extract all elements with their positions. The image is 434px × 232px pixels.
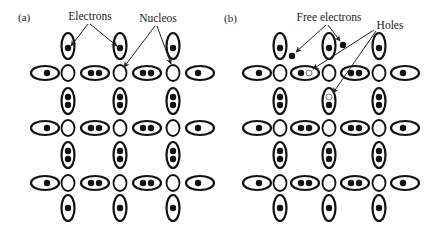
- electron: [170, 156, 176, 162]
- nucleus: [274, 175, 287, 191]
- bond-shell-horizontal: [341, 176, 369, 190]
- electron: [356, 70, 362, 76]
- lattice-b: [243, 33, 419, 221]
- panel-b: (b) Free electrons Holes: [224, 11, 419, 221]
- electron: [326, 205, 332, 211]
- electron: [44, 125, 50, 131]
- electron: [88, 125, 94, 131]
- electron: [96, 70, 102, 76]
- electron: [277, 156, 283, 162]
- electron: [376, 45, 382, 51]
- nucleos-arrows: [124, 26, 171, 67]
- electron: [326, 148, 332, 154]
- electron: [170, 102, 176, 108]
- electron: [195, 180, 201, 186]
- electron: [44, 70, 50, 76]
- nucleus: [373, 120, 386, 136]
- bond-shell-horizontal: [133, 121, 161, 135]
- electron: [96, 125, 102, 131]
- bond-shell-horizontal: [81, 176, 109, 190]
- hole: [306, 70, 312, 76]
- bond-shell-horizontal: [341, 66, 369, 80]
- electron: [65, 102, 71, 108]
- electron: [170, 45, 176, 51]
- electron: [117, 45, 123, 51]
- free-electron: [340, 42, 346, 48]
- electrons-arrows: [71, 24, 117, 46]
- hole: [326, 94, 332, 100]
- arrow-to-nucleus-1: [124, 26, 155, 67]
- nucleos-label: Nucleos: [139, 12, 177, 24]
- panel-a: (a) Electrons Nucleos: [18, 10, 214, 221]
- free-electron: [289, 53, 295, 59]
- electron: [117, 102, 123, 108]
- nucleus: [323, 120, 336, 136]
- nucleus: [373, 175, 386, 191]
- electron: [117, 156, 123, 162]
- bond-shell-vertical: [323, 142, 336, 168]
- electron: [148, 70, 154, 76]
- electron: [117, 205, 123, 211]
- nucleus: [62, 120, 75, 136]
- bond-shell-horizontal: [341, 121, 369, 135]
- electron: [170, 94, 176, 100]
- electron: [326, 156, 332, 162]
- bond-shell-horizontal: [291, 121, 319, 135]
- electron: [195, 125, 201, 131]
- electron: [195, 70, 201, 76]
- semiconductor-lattice-diagram: (a) Electrons Nucleos (b) Free electrons…: [0, 0, 434, 232]
- electron: [277, 102, 283, 108]
- electron: [96, 180, 102, 186]
- electron: [44, 180, 50, 186]
- electron: [88, 180, 94, 186]
- bond-shell-vertical: [62, 88, 75, 114]
- electron: [65, 94, 71, 100]
- nucleus: [323, 65, 336, 81]
- electron: [277, 205, 283, 211]
- nucleus: [323, 175, 336, 191]
- bond-shell-vertical: [274, 142, 287, 168]
- electron: [170, 148, 176, 154]
- electron: [277, 148, 283, 154]
- electron: [65, 156, 71, 162]
- nucleus: [167, 65, 180, 81]
- nucleus: [274, 65, 287, 81]
- electron: [326, 102, 332, 108]
- bond-shell-vertical: [114, 142, 127, 168]
- electron: [148, 125, 154, 131]
- nucleus: [373, 65, 386, 81]
- electron: [376, 94, 382, 100]
- bond-shell-horizontal: [133, 176, 161, 190]
- electrons-label: Electrons: [68, 10, 112, 22]
- electron: [356, 125, 362, 131]
- electron: [326, 45, 332, 51]
- electron: [298, 70, 304, 76]
- electron: [348, 125, 354, 131]
- bond-shell-vertical: [62, 142, 75, 168]
- electron: [170, 205, 176, 211]
- nucleus: [167, 175, 180, 191]
- electron: [140, 125, 146, 131]
- bond-shell-vertical: [167, 142, 180, 168]
- nucleus: [274, 120, 287, 136]
- nucleus: [167, 120, 180, 136]
- electron: [348, 180, 354, 186]
- free-electrons-label: Free electrons: [297, 11, 362, 23]
- electron: [400, 70, 406, 76]
- electron: [376, 156, 382, 162]
- electron: [298, 180, 304, 186]
- nucleus: [114, 65, 127, 81]
- electron: [400, 180, 406, 186]
- electron: [400, 125, 406, 131]
- electron: [140, 70, 146, 76]
- electron: [306, 180, 312, 186]
- electron: [117, 148, 123, 154]
- electron: [256, 70, 262, 76]
- electron: [65, 45, 71, 51]
- electron: [277, 94, 283, 100]
- panel-b-label: (b): [224, 12, 237, 25]
- nucleus: [114, 120, 127, 136]
- electron: [117, 94, 123, 100]
- electron: [277, 45, 283, 51]
- bond-shell-horizontal: [291, 176, 319, 190]
